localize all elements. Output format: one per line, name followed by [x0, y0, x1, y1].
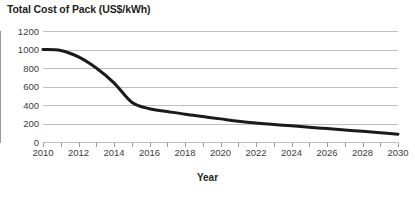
- x-axis-tick-label: 2016: [139, 148, 160, 158]
- x-axis-tick: [61, 143, 62, 147]
- y-axis-tick-label: 600: [3, 82, 39, 92]
- x-axis-tick: [345, 143, 346, 147]
- x-axis-tick-labels: 2010201220142016201820202022202420262028…: [0, 148, 415, 162]
- x-axis-tick: [96, 143, 97, 147]
- x-axis-tick: [380, 143, 381, 147]
- y-axis-tick-label: 1000: [3, 45, 39, 55]
- x-axis-tick: [203, 143, 204, 147]
- y-axis-tick-label: 200: [3, 119, 39, 129]
- x-axis-tick-label: 2022: [245, 148, 266, 158]
- data-series-line: [43, 31, 398, 142]
- x-axis-tick: [132, 143, 133, 147]
- chart-figure: Total Cost of Pack (US$/kWh) 12001000800…: [0, 0, 415, 197]
- x-axis-tick-label: 2026: [316, 148, 337, 158]
- x-axis-tick-label: 2010: [32, 148, 53, 158]
- y-axis-tick-label: 800: [3, 64, 39, 74]
- x-axis-tick-label: 2028: [352, 148, 373, 158]
- y-axis-tick-label: 1200: [3, 27, 39, 37]
- plot-area: [43, 31, 398, 142]
- x-axis-tick-label: 2012: [68, 148, 89, 158]
- x-axis-tick: [309, 143, 310, 147]
- x-axis-tick: [167, 143, 168, 147]
- x-axis-tick-label: 2020: [210, 148, 231, 158]
- y-axis-tick-label: 400: [3, 101, 39, 111]
- x-axis-tick: [274, 143, 275, 147]
- y-axis-tick-label: 0: [3, 138, 39, 148]
- x-axis-tick-label: 2030: [387, 148, 408, 158]
- x-axis-title: Year: [0, 172, 415, 183]
- y-axis-line: [0, 31, 1, 143]
- cost-curve-path: [43, 50, 398, 135]
- x-axis-tick-label: 2014: [103, 148, 124, 158]
- y-axis-tick-labels: 120010008006004002000: [0, 0, 39, 197]
- x-axis-tick: [238, 143, 239, 147]
- x-axis-tick-label: 2018: [174, 148, 195, 158]
- x-axis-tick-label: 2024: [281, 148, 302, 158]
